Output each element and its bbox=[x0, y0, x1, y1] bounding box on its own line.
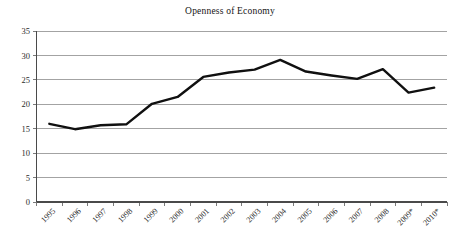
y-axis-tick-labels: 05101520253035 bbox=[22, 26, 31, 207]
series-line-openness-of-economy bbox=[49, 60, 434, 129]
chart-figure: Openness of Economy 05101520253035 19951… bbox=[0, 0, 460, 240]
x-tick-label: 2008 bbox=[373, 207, 391, 225]
x-tick-label: 2006 bbox=[322, 207, 340, 225]
y-tick-label: 15 bbox=[22, 124, 31, 134]
x-tick-label: 1999 bbox=[142, 207, 160, 225]
x-tick-label: 2003 bbox=[245, 207, 263, 225]
x-tick-label: 2002 bbox=[219, 207, 237, 225]
y-tick-label: 20 bbox=[22, 99, 31, 109]
x-axis-tick-labels: 1995199619971998199920002001200220032004… bbox=[39, 207, 442, 228]
x-tick-label: 1996 bbox=[65, 207, 83, 225]
x-tick-label: 2000 bbox=[168, 207, 186, 225]
x-tick-label: 1998 bbox=[116, 207, 134, 225]
y-tick-label: 0 bbox=[26, 197, 30, 207]
x-tick-label: 2009* bbox=[396, 207, 417, 228]
x-tick-marks-group bbox=[37, 202, 448, 206]
data-series-group bbox=[49, 60, 434, 129]
y-tick-label: 25 bbox=[22, 75, 31, 85]
x-tick-label: 2010* bbox=[421, 207, 442, 228]
gridlines-group bbox=[37, 31, 448, 178]
axis-lines-group bbox=[37, 31, 448, 202]
x-tick-label: 2007 bbox=[347, 207, 365, 225]
x-tick-label: 1995 bbox=[39, 207, 57, 225]
x-tick-label: 1997 bbox=[91, 207, 109, 225]
y-tick-label: 10 bbox=[22, 148, 31, 158]
y-tick-label: 35 bbox=[22, 26, 31, 36]
y-tick-label: 5 bbox=[26, 173, 30, 183]
x-tick-label: 2005 bbox=[296, 207, 314, 225]
y-tick-label: 30 bbox=[22, 51, 31, 61]
line-chart-plot: 05101520253035 1995199619971998199920002… bbox=[0, 0, 460, 240]
x-tick-label: 2004 bbox=[270, 207, 288, 225]
x-tick-label: 2001 bbox=[193, 207, 211, 225]
